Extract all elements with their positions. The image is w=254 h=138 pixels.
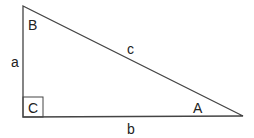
vertex-label-c: C <box>28 100 38 116</box>
side-label-c: c <box>127 41 134 57</box>
right-triangle-diagram: B C A a b c <box>0 0 254 138</box>
vertex-label-a: A <box>193 100 203 116</box>
triangle-outline <box>23 6 243 117</box>
side-label-b: b <box>127 121 135 137</box>
vertex-label-b: B <box>28 17 37 33</box>
side-label-a: a <box>11 54 19 70</box>
